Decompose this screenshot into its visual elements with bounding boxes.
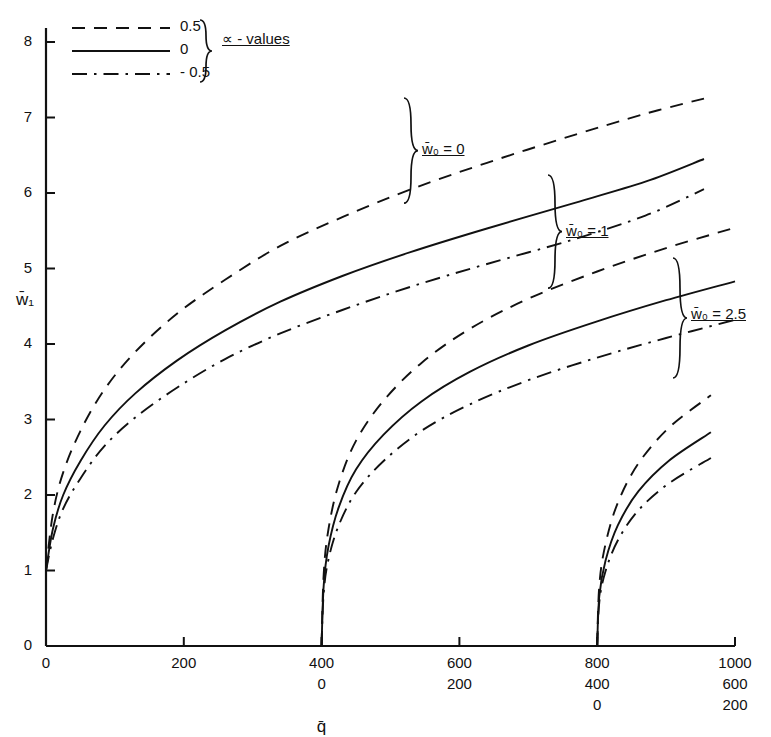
curve-series-layer xyxy=(46,99,735,646)
brace-group-3 xyxy=(673,258,687,378)
legend xyxy=(72,20,212,82)
curve-w0-1--alpha-0.5 xyxy=(322,228,735,646)
legend-brace xyxy=(200,20,212,82)
brace-group-2 xyxy=(548,175,562,288)
curve-w0-0--alpha--0.5 xyxy=(46,189,704,570)
curve-w0-2.5--alpha-0 xyxy=(597,432,711,646)
curve-w0-1--alpha--0.5 xyxy=(322,320,735,646)
curve-w0-0--alpha-0.5 xyxy=(46,99,704,571)
group-braces xyxy=(404,98,687,378)
brace-group-1 xyxy=(404,98,418,203)
curve-w0-1--alpha-0 xyxy=(322,281,735,646)
axes xyxy=(46,28,735,646)
curve-w0-0--alpha-0 xyxy=(46,159,704,571)
curve-w0-2.5--alpha--0.5 xyxy=(597,458,711,646)
curve-w0-2.5--alpha-0.5 xyxy=(597,395,711,646)
